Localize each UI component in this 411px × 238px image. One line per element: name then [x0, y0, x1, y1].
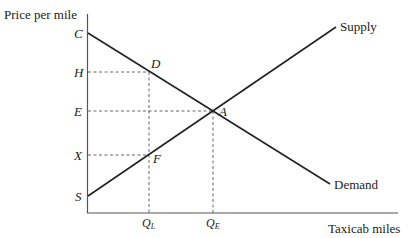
price-label-S: S	[75, 189, 82, 204]
price-label-X: X	[73, 148, 83, 163]
x-axis-label: Taxicab miles	[328, 221, 400, 236]
supply-demand-diagram: Price per mile Taxicab miles Supply Dema…	[0, 0, 411, 238]
price-label-H: H	[73, 65, 84, 80]
y-axis-label: Price per mile	[4, 7, 77, 22]
quantity-label-QE: QE	[206, 216, 220, 231]
point-A: A	[218, 104, 227, 119]
quantity-label-QL: QL	[142, 216, 156, 231]
point-D: D	[150, 56, 161, 71]
supply-label: Supply	[340, 19, 377, 34]
point-F: F	[152, 151, 162, 166]
supply-curve	[88, 27, 336, 196]
demand-label: Demand	[334, 177, 379, 192]
price-label-E: E	[73, 104, 82, 119]
price-label-C: C	[74, 26, 83, 41]
